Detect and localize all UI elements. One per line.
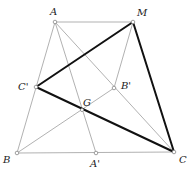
point-C — [172, 150, 176, 154]
point-A-prime — [94, 151, 98, 155]
label-C: C — [179, 154, 187, 165]
median-A-A-prime — [55, 22, 96, 153]
label-B: B — [2, 154, 10, 165]
triangle-M-C-prime-C — [36, 22, 174, 152]
point-C-prime — [34, 85, 38, 89]
point-B-prime — [112, 86, 116, 90]
point-M — [131, 20, 135, 24]
point-G — [80, 108, 83, 111]
thin-lines — [17, 22, 174, 153]
label-B-prime: B' — [120, 80, 131, 91]
point-B — [15, 151, 19, 155]
label-A-prime: A' — [89, 158, 100, 169]
label-C-prime: C' — [18, 81, 28, 92]
median-B-B-prime — [17, 88, 114, 153]
label-A: A — [49, 6, 57, 17]
geometry-diagram: A M C' B' G B A' C — [0, 0, 189, 170]
label-M: M — [136, 7, 148, 18]
point-A — [53, 20, 57, 24]
label-G: G — [83, 97, 91, 108]
bold-lines — [36, 22, 174, 152]
